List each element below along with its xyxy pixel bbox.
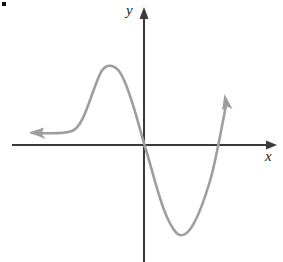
cubic-curve-path: [32, 66, 227, 236]
curve-right-arrowhead: [222, 94, 233, 111]
y-axis-label: y: [126, 3, 133, 18]
y-axis-arrowhead: [140, 7, 149, 19]
x-axis-label: x: [265, 149, 272, 164]
cubic-graph-figure: y x: [0, 0, 283, 262]
plot-canvas: [0, 0, 283, 262]
